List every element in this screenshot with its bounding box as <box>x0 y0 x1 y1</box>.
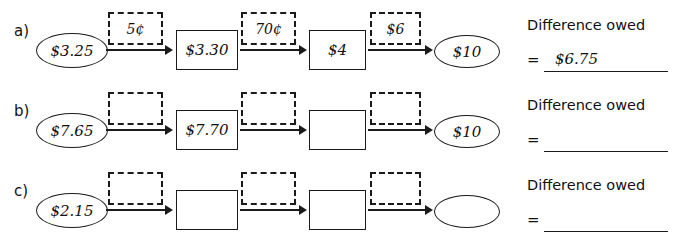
step-increment-box-a-2[interactable]: 70¢ <box>241 12 296 45</box>
arrow-right-icon-c-1 <box>106 205 174 215</box>
start-amount-value-c: $2.15 <box>51 202 94 220</box>
arrow-right-icon-a-3 <box>368 45 434 55</box>
arrow-shaft <box>106 129 166 131</box>
end-amount-value-a: $10 <box>453 43 482 61</box>
equals-sign-a: = <box>527 51 540 69</box>
money-counting-up-worksheet: a) $3.25 5¢ $3.30 70¢ $4 $6 <box>0 0 678 247</box>
step-increment-value-a-1: 5¢ <box>127 21 145 37</box>
answer-block-c: Difference owed = <box>527 176 672 194</box>
end-amount-oval-c <box>434 195 500 228</box>
start-amount-oval-a: $3.25 <box>36 33 108 68</box>
worksheet-row-a: a) $3.25 5¢ $3.30 70¢ $4 $6 <box>0 0 678 80</box>
answer-value-a: $6.75 <box>555 50 598 68</box>
answer-rule-b <box>544 151 668 152</box>
arrow-head <box>425 125 433 135</box>
equals-sign-b: = <box>527 131 540 149</box>
arrow-right-icon-a-2 <box>240 45 308 55</box>
arrow-shaft <box>368 129 426 131</box>
arrow-shaft <box>106 49 166 51</box>
worksheet-row-b: b) $7.65 $7.70 <box>0 80 678 160</box>
answer-input-line-b[interactable]: = <box>527 129 672 153</box>
running-total-box-b-1[interactable]: $7.70 <box>176 110 238 150</box>
answer-rule-c <box>544 231 668 232</box>
step-increment-box-b-2[interactable] <box>241 92 296 125</box>
answer-title-a: Difference owed <box>527 16 672 34</box>
arrow-head <box>425 45 433 55</box>
row-label-a: a) <box>14 22 29 40</box>
step-increment-value-a-3: $6 <box>387 21 405 37</box>
end-amount-value-b: $10 <box>453 123 482 141</box>
end-amount-oval-a: $10 <box>434 35 500 68</box>
start-amount-oval-c: $2.15 <box>36 193 108 228</box>
running-total-value-a-2: $4 <box>328 41 347 59</box>
row-label-b: b) <box>14 102 29 120</box>
step-increment-box-c-2[interactable] <box>241 172 296 205</box>
answer-block-b: Difference owed = <box>527 96 672 114</box>
start-amount-value-a: $3.25 <box>51 42 94 60</box>
arrow-head <box>299 205 307 215</box>
running-total-box-c-1[interactable] <box>176 190 238 230</box>
arrow-right-icon-b-1 <box>106 125 174 135</box>
arrow-shaft <box>368 49 426 51</box>
answer-input-line-c[interactable]: = <box>527 209 672 233</box>
arrow-shaft <box>106 209 166 211</box>
step-increment-box-c-1[interactable] <box>108 172 163 205</box>
step-increment-box-a-1[interactable]: 5¢ <box>108 12 163 45</box>
running-total-value-a-1: $3.30 <box>186 41 229 59</box>
running-total-box-a-1[interactable]: $3.30 <box>176 30 238 70</box>
answer-title-c: Difference owed <box>527 176 672 194</box>
arrow-shaft <box>240 129 300 131</box>
end-amount-oval-b: $10 <box>434 115 500 148</box>
step-increment-value-a-2: 70¢ <box>255 21 282 37</box>
arrow-shaft <box>240 209 300 211</box>
running-total-value-b-1: $7.70 <box>186 121 229 139</box>
arrow-head <box>165 125 173 135</box>
start-amount-oval-b: $7.65 <box>36 113 108 148</box>
answer-block-a: Difference owed = $6.75 <box>527 16 672 34</box>
answer-input-line-a[interactable]: = $6.75 <box>527 49 672 73</box>
running-total-box-c-2[interactable] <box>309 190 366 230</box>
step-increment-box-b-1[interactable] <box>108 92 163 125</box>
arrow-right-icon-c-2 <box>240 205 308 215</box>
arrow-shaft <box>240 49 300 51</box>
arrow-right-icon-b-3 <box>368 125 434 135</box>
step-increment-box-c-3[interactable] <box>370 172 421 205</box>
worksheet-row-c: c) $2.15 <box>0 160 678 240</box>
step-increment-box-a-3[interactable]: $6 <box>370 12 421 45</box>
arrow-head <box>165 205 173 215</box>
arrow-shaft <box>368 209 426 211</box>
step-increment-box-b-3[interactable] <box>370 92 421 125</box>
arrow-right-icon-b-2 <box>240 125 308 135</box>
equals-sign-c: = <box>527 211 540 229</box>
running-total-box-a-2[interactable]: $4 <box>309 30 366 70</box>
arrow-head <box>425 205 433 215</box>
arrow-head <box>165 45 173 55</box>
arrow-right-icon-a-1 <box>106 45 174 55</box>
answer-title-b: Difference owed <box>527 96 672 114</box>
arrow-right-icon-c-3 <box>368 205 434 215</box>
arrow-head <box>299 125 307 135</box>
arrow-head <box>299 45 307 55</box>
start-amount-value-b: $7.65 <box>51 122 94 140</box>
row-label-c: c) <box>14 182 28 200</box>
answer-rule-a <box>544 71 668 72</box>
running-total-box-b-2[interactable] <box>309 110 366 150</box>
